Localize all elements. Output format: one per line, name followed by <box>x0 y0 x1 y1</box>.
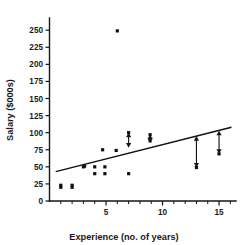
y-tick-label: 150 <box>29 95 43 104</box>
data-point <box>93 165 96 168</box>
residual-arrow <box>194 136 199 167</box>
data-point <box>71 186 74 189</box>
x-axis-tick-labels: 51015 <box>104 208 224 217</box>
y-tick-label: 200 <box>29 60 43 69</box>
residual-arrow <box>126 133 131 148</box>
y-tick-label: 0 <box>38 197 43 206</box>
data-point <box>115 149 118 152</box>
x-tick-label: 10 <box>158 208 168 217</box>
data-point <box>83 165 86 168</box>
x-axis-title: Experience (no. of years) <box>69 232 178 242</box>
x-tick-label: 5 <box>104 208 109 217</box>
data-point <box>93 172 96 175</box>
y-tick-label: 225 <box>29 43 43 52</box>
y-tick-label: 75 <box>34 146 44 155</box>
data-point <box>127 172 130 175</box>
data-point <box>127 131 130 134</box>
x-tick-label: 15 <box>214 208 224 217</box>
y-tick-label: 250 <box>29 26 43 35</box>
data-point <box>148 133 151 136</box>
chart-canvas: 0255075100125150175200225250 51015 Exper… <box>0 0 243 245</box>
regression-line <box>56 127 232 171</box>
y-tick-label: 100 <box>29 129 43 138</box>
residual-arrows-group <box>126 131 222 168</box>
y-tick-label: 125 <box>29 112 43 121</box>
y-tick-label: 25 <box>34 180 44 189</box>
y-tick-label: 175 <box>29 77 43 86</box>
data-point <box>101 148 104 151</box>
residual-arrow <box>216 131 221 154</box>
y-tick-label: 50 <box>34 163 44 172</box>
y-axis-tick-labels: 0255075100125150175200225250 <box>29 26 43 206</box>
data-point <box>195 166 198 169</box>
data-point <box>103 165 106 168</box>
y-axis-title: Salary ($000s) <box>5 79 15 141</box>
data-point <box>116 29 119 32</box>
data-point <box>59 186 62 189</box>
scatter-plot-figure: 0255075100125150175200225250 51015 Exper… <box>0 0 243 245</box>
data-point <box>103 172 106 175</box>
data-point <box>217 152 220 155</box>
data-point <box>148 139 151 142</box>
